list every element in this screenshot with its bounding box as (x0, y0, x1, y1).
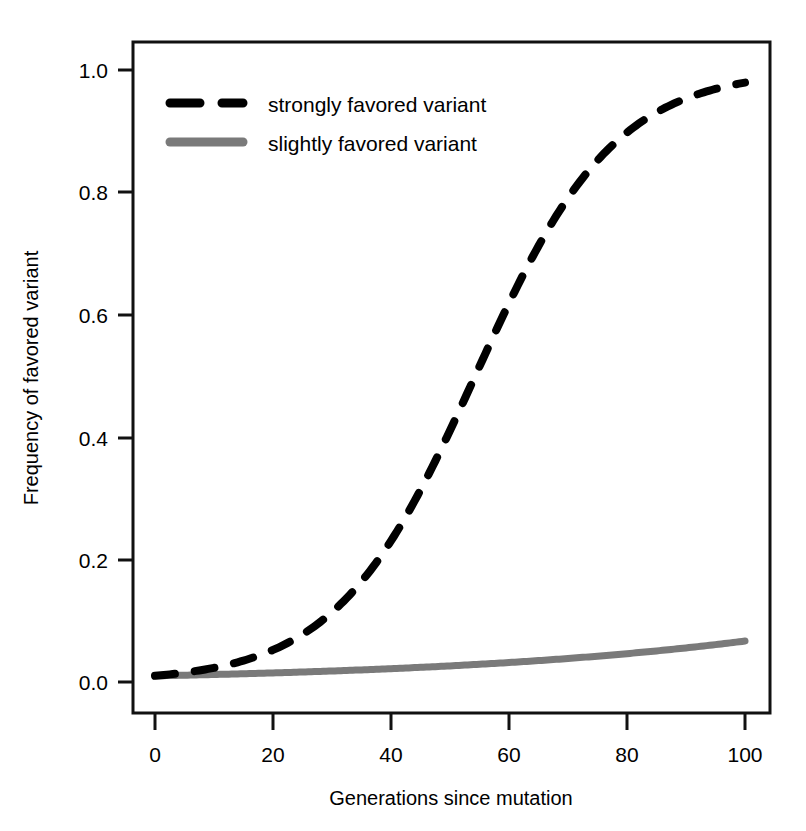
y-axis-title: Frequency of favored variant (20, 250, 42, 505)
y-tick-label-1: 0.2 (79, 549, 108, 572)
x-tick-label-4: 80 (615, 743, 638, 766)
x-tick-label-1: 20 (261, 743, 284, 766)
y-tick-label-4: 0.8 (79, 181, 108, 204)
y-tick-label-5: 1.0 (79, 59, 108, 82)
x-tick-label-3: 60 (497, 743, 520, 766)
x-axis-title: Generations since mutation (329, 787, 572, 809)
y-tick-label-2: 0.4 (79, 427, 109, 450)
y-tick-label-3: 0.6 (79, 304, 108, 327)
x-tick-label-2: 40 (379, 743, 402, 766)
legend-label-strongly-favored-variant: strongly favored variant (268, 93, 486, 116)
chart-background (0, 0, 806, 831)
y-tick-label-0: 0.0 (79, 671, 108, 694)
frequency-of-favored-variant-chart: 1.0 0.8 0.6 0.4 0.2 0.0 0 20 40 60 80 10… (0, 0, 806, 831)
legend-label-slightly-favored-variant: slightly favored variant (268, 132, 477, 155)
x-tick-label-5: 100 (727, 743, 762, 766)
x-tick-label-0: 0 (149, 743, 161, 766)
